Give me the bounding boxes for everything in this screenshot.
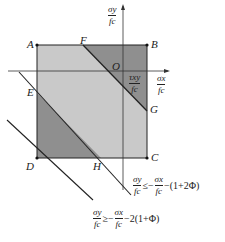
shear-label: τxy fc <box>129 73 140 94</box>
inequality-upper-op: ≤− <box>142 180 153 191</box>
inequality-upper-tail: −(1+2Φ) <box>164 180 199 191</box>
x-axis-label-den: fc <box>158 86 165 95</box>
rhs-den: fc <box>116 220 123 229</box>
y-axis-label-num: σy <box>108 5 116 14</box>
x-axis-label-num: σx <box>157 74 165 83</box>
y-axis-label-den: fc <box>109 17 116 26</box>
lhs-den: fc <box>134 187 141 196</box>
y-axis-arrow <box>121 4 125 10</box>
point-a-dot <box>35 43 38 46</box>
inequality-upper: σy fc ≤− σx fc −(1+2Φ) <box>133 175 200 196</box>
rhs-num: σx <box>115 208 123 217</box>
y-axis-label: σy fc <box>108 5 116 26</box>
lhs-num: σy <box>133 175 141 184</box>
diagram-canvas <box>0 0 225 242</box>
label-c: C <box>151 152 158 163</box>
label-e: E <box>27 87 34 98</box>
inequality-lower-rhs: σx fc <box>115 208 123 229</box>
lhs-den: fc <box>94 220 101 229</box>
rhs-num: σx <box>155 175 163 184</box>
inequality-lower-lhs: σy fc <box>93 208 101 229</box>
shear-label-den: fc <box>131 85 138 94</box>
point-b-dot <box>145 43 148 46</box>
label-h: H <box>93 161 101 172</box>
inequality-lower-op: ≥− <box>102 213 113 224</box>
rhs-den: fc <box>156 187 163 196</box>
inequality-upper-rhs: σx fc <box>155 175 163 196</box>
inequality-upper-lhs: σy fc <box>133 175 141 196</box>
inequality-lower-tail: −2(1+Φ) <box>124 213 159 224</box>
lhs-num: σy <box>93 208 101 217</box>
label-a: A <box>27 39 34 50</box>
label-f: F <box>80 35 87 46</box>
point-d-dot <box>35 156 38 159</box>
shear-label-num: τxy <box>129 73 140 82</box>
label-d: D <box>26 161 34 172</box>
inequality-lower: σy fc ≥− σx fc −2(1+Φ) <box>93 208 160 229</box>
point-c-dot <box>145 156 148 159</box>
label-origin: O <box>112 61 120 72</box>
label-g: G <box>150 104 158 115</box>
label-b: B <box>151 39 158 50</box>
x-axis-label: σx fc <box>157 74 165 95</box>
